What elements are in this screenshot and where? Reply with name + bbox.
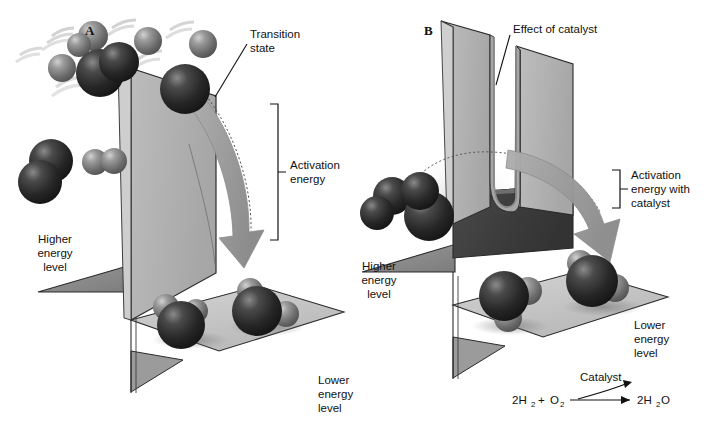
hydrogen-molecule-a3 — [189, 30, 217, 58]
lower-energy-label-a-line1: Lower — [318, 374, 349, 386]
transition-state-label-line2: state — [250, 42, 275, 54]
activation-catalyst-label-line2: energy with — [631, 183, 690, 195]
panel-b: B Effect of catalyst Activation energy w… — [360, 21, 690, 409]
activation-energy-label-line2: energy — [290, 173, 325, 185]
lower-platform-base-wedge-a — [131, 351, 183, 392]
oxygen-molecule-a3 — [18, 139, 73, 204]
lower-energy-label-b-line2: energy — [634, 333, 669, 345]
oxygen-molecule-a2 — [160, 64, 210, 114]
equation-reactant-o2-main: O — [550, 394, 559, 406]
lower-energy-label-a-line3: level — [318, 402, 342, 414]
lower-platform-base-wedge-b — [453, 337, 505, 378]
transition-state-leader-line-a — [215, 44, 247, 97]
equation-reactant-h2-main: 2H — [512, 394, 527, 406]
lower-energy-label-b-line3: level — [634, 347, 658, 359]
equation-reactant-h2-sub: 2 — [531, 400, 536, 409]
equation-product-main-1: 2H — [637, 394, 652, 406]
water-molecule-b2 — [566, 250, 629, 307]
figure-canvas: A Transition state Activation energy Hig… — [0, 0, 704, 435]
lower-energy-label-a-line2: energy — [318, 388, 353, 400]
chemical-equation: 2H 2 + O 2 Catalyst 2H 2 O — [512, 371, 670, 409]
equation-reactant-o2-sub: 2 — [560, 400, 565, 409]
equation-arrow-head-forward — [621, 396, 630, 404]
hydrogen-molecule-a5 — [82, 148, 127, 175]
energy-diagram-figure: A Transition state Activation energy Hig… — [0, 0, 704, 435]
hydrogen-molecule-a2 — [134, 27, 162, 55]
higher-energy-label-a-line2: energy — [37, 247, 72, 259]
higher-energy-label-a-line1: Higher — [38, 233, 72, 245]
equation-plus-sign: + — [538, 394, 545, 406]
activation-catalyst-label-line3: catalyst — [631, 197, 671, 209]
higher-energy-label-b-line1: Higher — [362, 260, 396, 272]
equation-product-main-2: O — [661, 394, 670, 406]
equation-arrow-head-catalyst — [623, 380, 632, 388]
panel-a: A Transition state Activation energy Hig… — [16, 20, 353, 414]
higher-energy-label-b-line3: level — [367, 288, 391, 300]
activation-energy-label-line1: Activation — [290, 159, 340, 171]
hydrogen-molecule-a4 — [48, 54, 76, 82]
activation-catalyst-label-line1: Activation — [631, 169, 681, 181]
activation-energy-bracket-a — [270, 104, 286, 240]
transition-state-label-line1: Transition — [250, 28, 300, 40]
effect-of-catalyst-label: Effect of catalyst — [513, 23, 598, 35]
equation-arrow-curve — [578, 383, 628, 399]
panel-a-letter: A — [85, 23, 95, 38]
lower-energy-label-b-line1: Lower — [634, 319, 665, 331]
activation-energy-catalyst-bracket-b — [612, 170, 628, 208]
equation-catalyst-label: Catalyst — [580, 371, 622, 383]
effect-of-catalyst-leader-line-b — [496, 35, 510, 85]
higher-energy-label-a-line3: level — [43, 261, 67, 273]
panel-b-letter: B — [424, 23, 433, 38]
higher-energy-label-b-line2: energy — [361, 274, 396, 286]
